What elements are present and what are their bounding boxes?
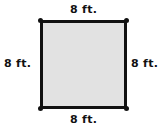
corner-dot-top-left (38, 18, 43, 23)
corner-dot-bottom-left (38, 106, 43, 111)
corner-dot-bottom-right (124, 106, 129, 111)
bottom-side-label: 8 ft. (70, 113, 97, 126)
right-side-label: 8 ft. (131, 57, 158, 70)
square-shape (40, 20, 127, 109)
left-side-label: 8 ft. (4, 57, 31, 70)
top-side-label: 8 ft. (70, 3, 97, 16)
corner-dot-top-right (124, 18, 129, 23)
